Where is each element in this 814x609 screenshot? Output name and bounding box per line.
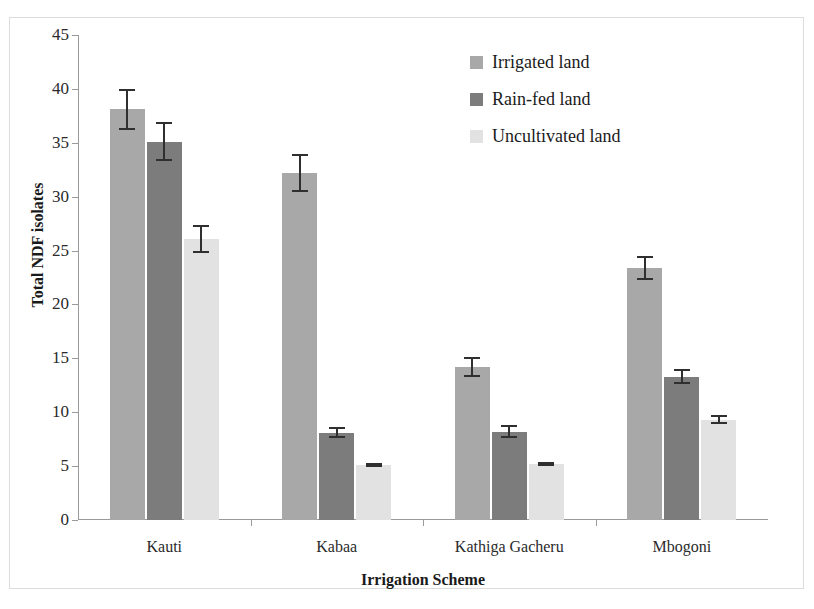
error-bar-cap-top	[637, 256, 653, 258]
bar	[492, 432, 527, 520]
bar-group-kauti: Kauti	[78, 35, 251, 520]
error-bar-cap-bottom	[119, 128, 135, 130]
y-tick-label: 10	[52, 402, 69, 422]
x-axis-separator	[251, 520, 252, 526]
bar	[356, 465, 391, 520]
bar	[455, 367, 490, 520]
y-tick-label: 30	[52, 187, 69, 207]
y-axis-title: Total NDF isolates	[29, 145, 47, 345]
error-bar-cap-top	[464, 357, 480, 359]
error-bar-line	[163, 122, 165, 161]
bar	[319, 433, 354, 520]
bar	[664, 377, 699, 520]
error-bar-cap-top	[501, 425, 517, 427]
bar	[282, 173, 317, 520]
bar-group-mbogoni: Mbogoni	[596, 35, 769, 520]
y-tick-label: 35	[52, 133, 69, 153]
error-bar-cap-bottom	[366, 465, 382, 467]
error-bar-cap-bottom	[538, 464, 554, 466]
bar	[627, 268, 662, 520]
bar-group-kabaa: Kabaa	[251, 35, 424, 520]
error-bar-cap-top	[711, 415, 727, 417]
x-tick-label: Kathiga Gacheru	[423, 538, 596, 556]
x-tick-label: Mbogoni	[596, 538, 769, 556]
error-bar-line	[644, 256, 646, 280]
x-axis-title: Irrigation Scheme	[78, 571, 768, 589]
error-bar-cap-top	[156, 122, 172, 124]
bar	[701, 420, 736, 520]
error-bar-cap-bottom	[156, 159, 172, 161]
y-tick-label: 5	[61, 456, 70, 476]
y-tick-label: 0	[61, 510, 70, 530]
y-tick-mark	[72, 520, 78, 521]
bar	[110, 109, 145, 520]
legend-item-rain-fed-land: Rain-fed land	[470, 81, 620, 118]
error-bar-cap-bottom	[464, 375, 480, 377]
x-tick-label: Kauti	[78, 538, 251, 556]
bar	[529, 464, 564, 520]
legend: Irrigated landRain-fed landUncultivated …	[470, 44, 620, 155]
plot-area: 051015202530354045 KautiKabaaKathiga Gac…	[78, 35, 768, 520]
legend-label: Uncultivated land	[492, 126, 620, 147]
y-tick-label: 45	[52, 25, 69, 45]
bar	[147, 142, 182, 520]
error-bar-cap-bottom	[711, 422, 727, 424]
y-tick-label: 15	[52, 348, 69, 368]
error-bar-cap-bottom	[292, 190, 308, 192]
x-axis-separator	[423, 520, 424, 526]
error-bar-cap-bottom	[501, 436, 517, 438]
error-bar-cap-top	[119, 89, 135, 91]
error-bar-cap-top	[329, 427, 345, 429]
error-bar-line	[200, 225, 202, 253]
x-tick-label: Kabaa	[251, 538, 424, 556]
legend-swatch-icon	[470, 130, 483, 143]
legend-item-irrigated-land: Irrigated land	[470, 44, 620, 81]
error-bar-cap-bottom	[637, 278, 653, 280]
legend-swatch-icon	[470, 56, 483, 69]
error-bar-cap-top	[674, 369, 690, 371]
legend-swatch-icon	[470, 93, 483, 106]
y-tick-label: 20	[52, 294, 69, 314]
x-axis-separator	[596, 520, 597, 526]
error-bar-cap-top	[292, 154, 308, 156]
error-bar-cap-top	[193, 225, 209, 227]
legend-label: Irrigated land	[492, 52, 589, 73]
error-bar-line	[126, 89, 128, 130]
legend-item-uncultivated-land: Uncultivated land	[470, 118, 620, 155]
legend-label: Rain-fed land	[492, 89, 590, 110]
error-bar-cap-bottom	[193, 251, 209, 253]
error-bar-cap-bottom	[674, 382, 690, 384]
bar	[184, 239, 219, 520]
error-bar-line	[299, 154, 301, 193]
y-tick-label: 25	[52, 241, 69, 261]
figure-bar-chart: 051015202530354045 KautiKabaaKathiga Gac…	[0, 0, 814, 609]
error-bar-cap-bottom	[329, 436, 345, 438]
y-tick-label: 40	[52, 79, 69, 99]
